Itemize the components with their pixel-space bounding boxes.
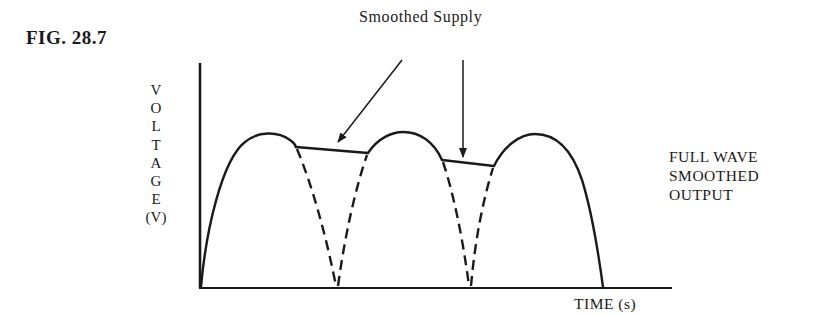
rectified-wave	[201, 132, 603, 287]
unsmoothed-dips	[297, 149, 493, 286]
dip-1-right	[338, 155, 367, 286]
y-axis-letter: G	[138, 172, 174, 190]
smoothed-supply-label: Smoothed Supply	[359, 8, 482, 26]
side-label-line: OUTPUT	[669, 185, 759, 204]
y-axis-letter: L	[138, 117, 174, 135]
y-axis-letter: O	[138, 99, 174, 117]
y-axis-unit: (V)	[138, 208, 174, 226]
hump-3	[494, 134, 603, 287]
y-axis-letter: T	[138, 136, 174, 154]
y-axis-letter: E	[138, 190, 174, 208]
axes	[199, 63, 672, 288]
annotation-arrows	[338, 60, 463, 157]
side-label-line: SMOOTHED	[669, 166, 759, 185]
smoothed-segment-1	[296, 147, 368, 153]
dip-2-left	[443, 162, 469, 286]
waveform-description-label: FULL WAVE SMOOTHED OUTPUT	[669, 147, 759, 204]
side-label-line: FULL WAVE	[669, 147, 759, 166]
smoothed-supply	[296, 147, 494, 166]
hump-2	[368, 132, 442, 160]
hump-1	[201, 133, 296, 287]
y-axis-letter: V	[138, 81, 174, 99]
dip-1-left	[297, 149, 336, 286]
y-axis-label: V O L T A G E (V)	[138, 81, 174, 227]
arrow-to-segment-1	[338, 60, 402, 142]
y-axis-letter: A	[138, 154, 174, 172]
smoothed-segment-2	[442, 160, 494, 166]
dip-2-right	[471, 168, 493, 286]
x-axis-label: TIME (s)	[574, 295, 636, 313]
